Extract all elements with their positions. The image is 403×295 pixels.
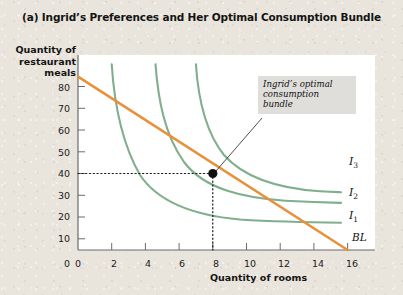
curve-label-i2-subscript: 2 <box>353 192 358 201</box>
callout-leader-line <box>216 118 262 171</box>
y-axis-ticks <box>78 87 85 239</box>
curve-label-i3-subscript: 3 <box>353 161 358 170</box>
optimal-bundle-point <box>208 169 217 178</box>
curve-label-i3: I3 <box>349 155 358 170</box>
curve-label-budget-line: BL <box>352 231 367 243</box>
curve-label-i1-subscript: 1 <box>353 215 358 224</box>
x-axis-ticks <box>112 243 348 250</box>
callout-line-3: bundle <box>263 99 351 109</box>
curve-label-i1: I1 <box>349 209 358 224</box>
callout-line-1: Ingrid’s optimal <box>263 79 351 89</box>
curve-label-i2: I2 <box>349 186 358 201</box>
chart-vector-layer <box>0 0 403 295</box>
optimal-bundle-callout: Ingrid’s optimal consumption bundle <box>258 76 356 114</box>
callout-line-2: consumption <box>263 89 351 99</box>
